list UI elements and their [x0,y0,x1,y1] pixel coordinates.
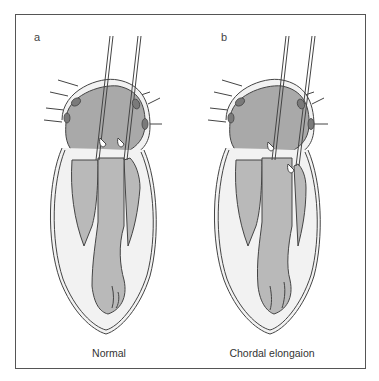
caption-normal: Normal [29,347,189,359]
heart-diagram-normal [0,0,190,381]
caption-chordal-elongation: Chordal elongaion [192,347,352,359]
heart-diagram-chordal-elongation [188,0,378,381]
